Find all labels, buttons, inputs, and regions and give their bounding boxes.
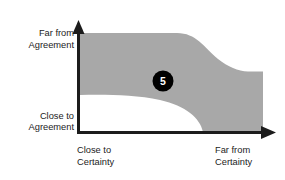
- x-axis-right-label: Far from Certainty: [215, 145, 253, 167]
- y-axis-top-label-line2: Agreement: [29, 40, 75, 50]
- x-axis-right-label-line2: Certainty: [215, 157, 253, 167]
- x-axis-left-label-line2: Certainty: [77, 157, 115, 167]
- certainty-agreement-diagram: 5 Far from Agreement Close to Agreement …: [0, 0, 285, 180]
- y-axis-top-label: Far from Agreement: [29, 28, 75, 50]
- diagram-canvas: 5 Far from Agreement Close to Agreement …: [0, 0, 285, 180]
- x-axis-left-label: Close to Certainty: [77, 145, 115, 167]
- x-axis-right-label-line1: Far from: [215, 145, 250, 155]
- y-axis-arrowhead: [73, 20, 85, 34]
- marker-5: 5: [153, 71, 174, 92]
- y-axis-top-label-line1: Far from: [39, 28, 74, 38]
- x-axis-left-label-line1: Close to: [77, 145, 111, 155]
- y-axis-bottom-label-line1: Close to: [40, 111, 74, 121]
- x-axis-arrowhead: [261, 126, 276, 139]
- marker-label: 5: [160, 75, 166, 87]
- y-axis-bottom-label-line2: Agreement: [29, 122, 75, 132]
- y-axis-bottom-label: Close to Agreement: [29, 111, 75, 133]
